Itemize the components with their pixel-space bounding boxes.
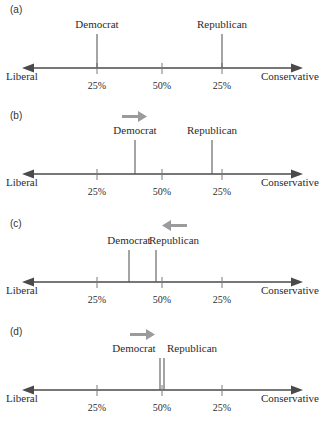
tick-label-25-left: 25% xyxy=(88,402,106,413)
tick-label-25-right: 25% xyxy=(213,80,231,91)
pole-label-conservative: Conservative xyxy=(261,284,319,296)
panel-a-axis-graphic xyxy=(0,0,323,108)
tick-label-25-left: 25% xyxy=(88,186,106,197)
pole-label-liberal: Liberal xyxy=(6,70,38,82)
tick-label-50: 50% xyxy=(153,294,171,305)
pole-label-conservative: Conservative xyxy=(261,176,319,188)
tick-label-50: 50% xyxy=(153,80,171,91)
democrat-label: Democrat xyxy=(107,234,150,246)
panel-b: (b) Democrat Republican Liberal Conserva… xyxy=(0,106,323,214)
tick-label-25-left: 25% xyxy=(88,80,106,91)
tick-label-25-left: 25% xyxy=(88,294,106,305)
tick-label-50: 50% xyxy=(153,402,171,413)
pole-label-liberal: Liberal xyxy=(6,284,38,296)
panel-b-axis-graphic xyxy=(0,106,323,214)
tick-label-25-right: 25% xyxy=(213,402,231,413)
tick-label-25-right: 25% xyxy=(213,294,231,305)
democrat-label: Democrat xyxy=(112,342,155,354)
four-panel-ideology-diagram: (a) Democrat Republican Liberal Conserva… xyxy=(0,0,323,432)
republican-label: Republican xyxy=(149,234,199,246)
pole-label-liberal: Liberal xyxy=(6,392,38,404)
republican-label: Republican xyxy=(187,124,237,136)
tick-label-50: 50% xyxy=(153,186,171,197)
panel-d-axis-graphic xyxy=(0,322,323,430)
democrat-label: Democrat xyxy=(113,124,156,136)
pole-label-liberal: Liberal xyxy=(6,176,38,188)
panel-d: (d) Democrat Republican Liberal Conserva… xyxy=(0,322,323,430)
pole-label-conservative: Conservative xyxy=(261,70,319,82)
democrat-label: Democrat xyxy=(75,18,118,30)
republican-label: Republican xyxy=(197,18,247,30)
pole-label-conservative: Conservative xyxy=(261,392,319,404)
tick-label-25-right: 25% xyxy=(213,186,231,197)
republican-label: Republican xyxy=(167,342,217,354)
panel-a: (a) Democrat Republican Liberal Conserva… xyxy=(0,0,323,108)
panel-c: (c) Democrat Republican Liberal Conserva… xyxy=(0,214,323,322)
